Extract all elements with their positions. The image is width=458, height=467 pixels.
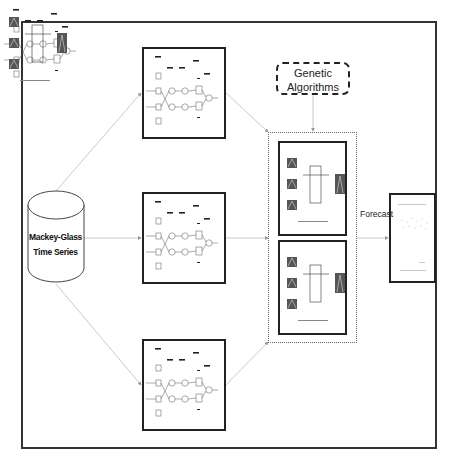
neural-network-top [142, 47, 226, 139]
networks-to-integrators-arrows [226, 93, 268, 385]
fuzzy-integrator-2 [278, 240, 347, 335]
neural-network-bottom [142, 339, 226, 431]
genetic-algorithms-box: Genetic Algorithms [276, 62, 350, 95]
fuzzy-integrator-1 [278, 141, 347, 236]
neural-network-middle [142, 192, 226, 284]
forecast-output [389, 193, 436, 283]
source-label-line1: Mackey-Glass [27, 230, 84, 245]
source-label: Mackey-Glass Time Series [27, 230, 84, 260]
source-label-line2: Time Series [27, 245, 84, 260]
ga-label-line2: Algorithms [278, 80, 348, 94]
forecast-label: Forecast [360, 209, 393, 219]
ga-label-line1: Genetic [278, 66, 348, 80]
fuzzy-integrator-icon [9, 17, 67, 81]
